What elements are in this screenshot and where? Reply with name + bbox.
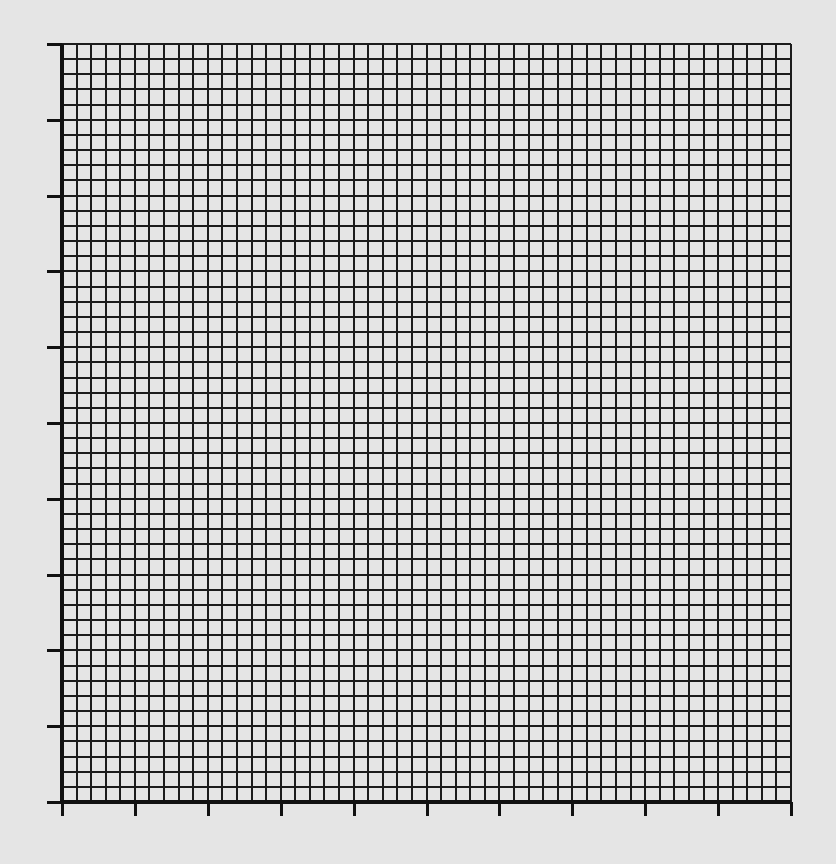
blank-grid-chart — [0, 0, 836, 864]
graph-paper — [0, 0, 836, 864]
axis-ticks — [47, 44, 791, 816]
major-grid-lines — [62, 44, 791, 802]
